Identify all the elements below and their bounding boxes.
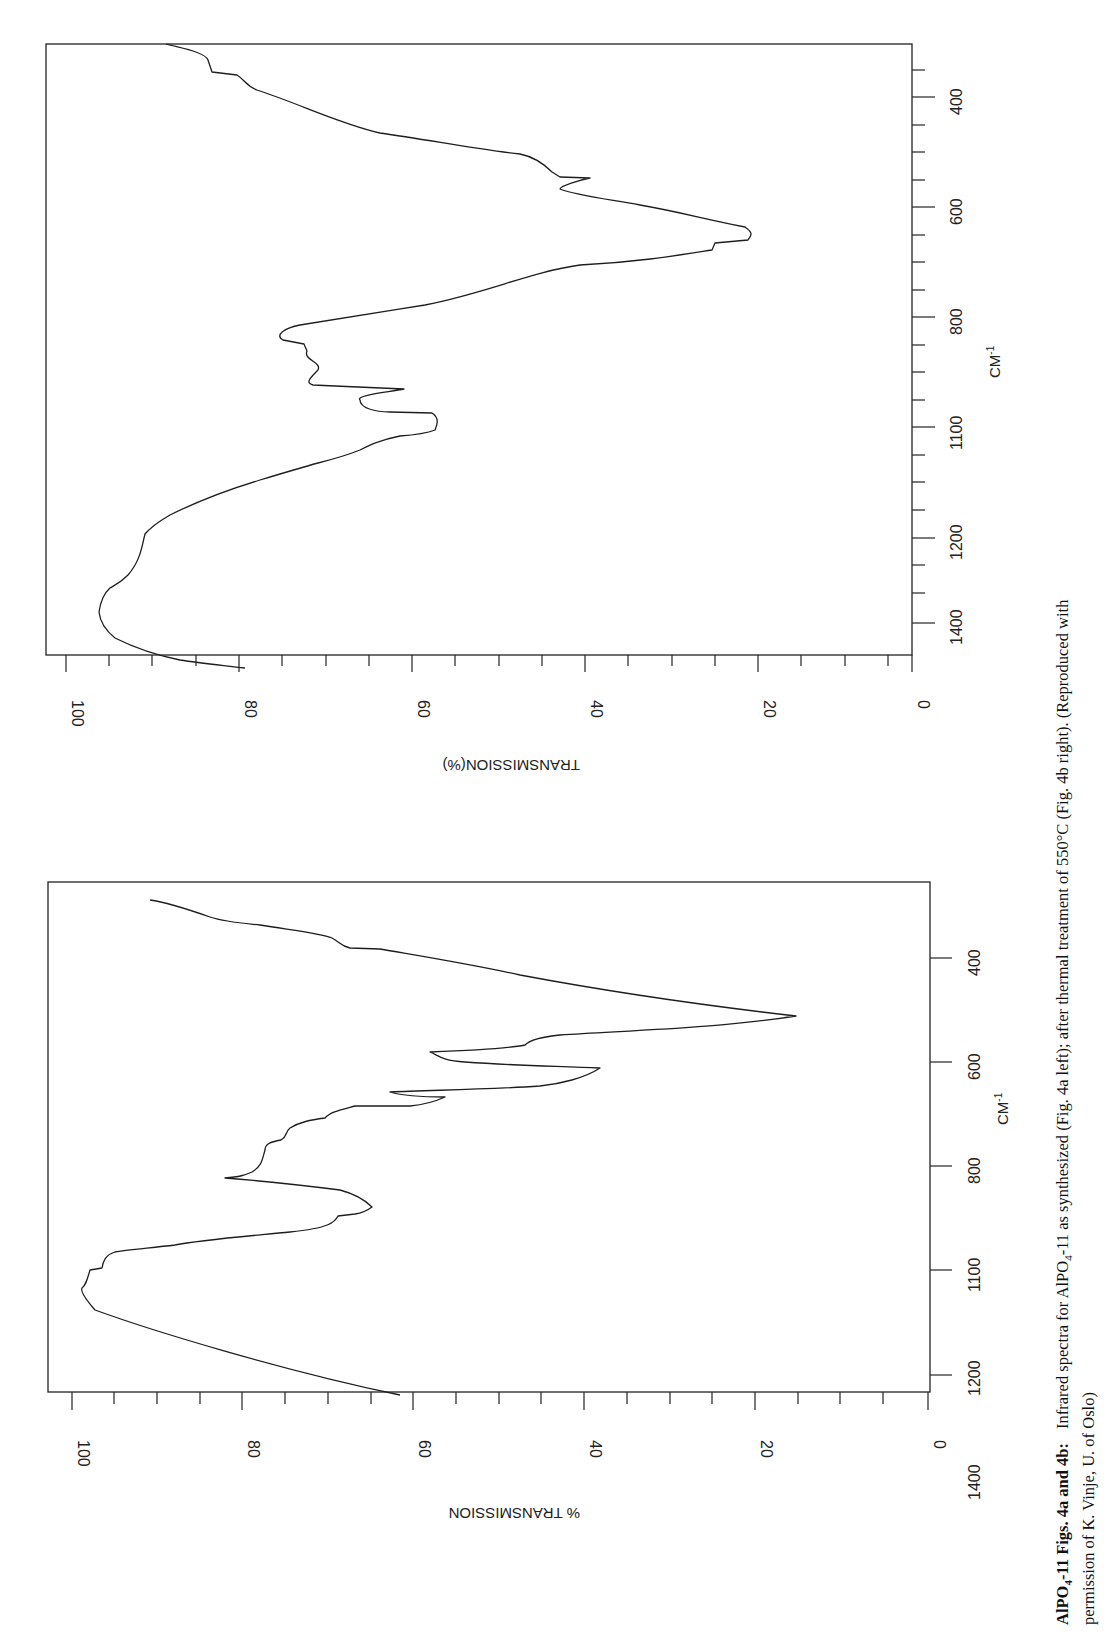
pct-tick-label: 100 — [69, 700, 86, 727]
pct-tick-label: 80 — [245, 1440, 262, 1458]
pct-axis-title: TRANSMISSION(%) — [442, 757, 580, 774]
caption-line-1: AlPO4-11 Figs. 4a and 4b:Infrared spectr… — [1053, 599, 1074, 1625]
wn-tick-label: 1400 — [966, 1464, 983, 1500]
pct-tick-label: 40 — [587, 1440, 604, 1458]
figure-canvas: 100 80 60 40 20 0 TRANSMISSION(%) — [0, 0, 1113, 1632]
chart-fig4a: 100 80 60 40 20 0 % TRANSMISSION 400 600… — [48, 882, 1011, 1522]
pct-axis: 100 80 60 40 20 0 % TRANSMISSION — [72, 1392, 948, 1522]
pct-tick-label: 20 — [758, 1440, 775, 1458]
wn-tick-label: 400 — [948, 88, 965, 115]
wn-tick-label: 1400 — [948, 609, 965, 645]
pct-axis-title: % TRANSMISSION — [449, 1505, 580, 1522]
caption-line-2: permission of K. Vinje, U. of Oslo) — [1079, 1392, 1098, 1625]
wn-tick-label: 800 — [948, 308, 965, 335]
pct-tick-label: 60 — [416, 1440, 433, 1458]
wn-tick-label: 600 — [948, 198, 965, 225]
pct-tick-label: 40 — [588, 700, 605, 718]
wn-axis-title: CM-1 — [993, 1092, 1011, 1125]
pct-axis: 100 80 60 40 20 0 TRANSMISSION(%) — [66, 655, 932, 774]
pct-tick-label: 60 — [415, 700, 432, 718]
pct-tick-label: 20 — [761, 700, 778, 718]
pct-tick-label: 0 — [931, 1440, 948, 1449]
wn-tick-label: 400 — [966, 949, 983, 976]
wn-axis-title: CM-1 — [985, 345, 1003, 378]
spectrum-curve-fig4b — [99, 44, 751, 668]
wavenumber-axis: 400 600 800 1100 1200 1400 CM-1 — [930, 949, 1011, 1500]
wn-tick-label: 1200 — [948, 524, 965, 560]
plot-frame — [46, 44, 912, 655]
pct-tick-label: 80 — [242, 700, 259, 718]
wn-tick-label: 1200 — [966, 1360, 983, 1396]
wn-tick-label: 1100 — [966, 1257, 983, 1292]
wn-tick-label: 1100 — [948, 415, 965, 450]
wavenumber-axis: 400 600 800 1100 1200 1400 CM-1 — [912, 70, 1003, 645]
wn-tick-label: 600 — [966, 1053, 983, 1080]
chart-fig4b: 100 80 60 40 20 0 TRANSMISSION(%) — [46, 44, 1003, 774]
plot-frame — [48, 882, 930, 1392]
wn-tick-label: 800 — [966, 1157, 983, 1184]
pct-tick-label: 100 — [75, 1440, 92, 1467]
pct-tick-label: 0 — [915, 700, 932, 709]
spectrum-curve-fig4a — [82, 900, 796, 1395]
figure-caption: AlPO4-11 Figs. 4a and 4b:Infrared spectr… — [1053, 599, 1098, 1625]
